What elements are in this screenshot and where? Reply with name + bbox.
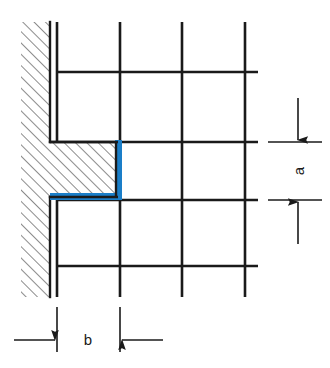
technical-drawing-figure: a b bbox=[0, 0, 330, 368]
diagram-canvas: a b bbox=[0, 0, 330, 368]
dimension-a-label: a bbox=[290, 166, 307, 175]
dimension-b-label: b bbox=[84, 331, 92, 348]
wall-hatched-region bbox=[18, 18, 128, 302]
